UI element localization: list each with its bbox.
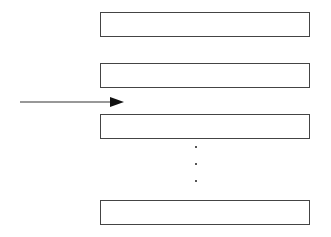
right-arrow-icon xyxy=(0,0,331,237)
